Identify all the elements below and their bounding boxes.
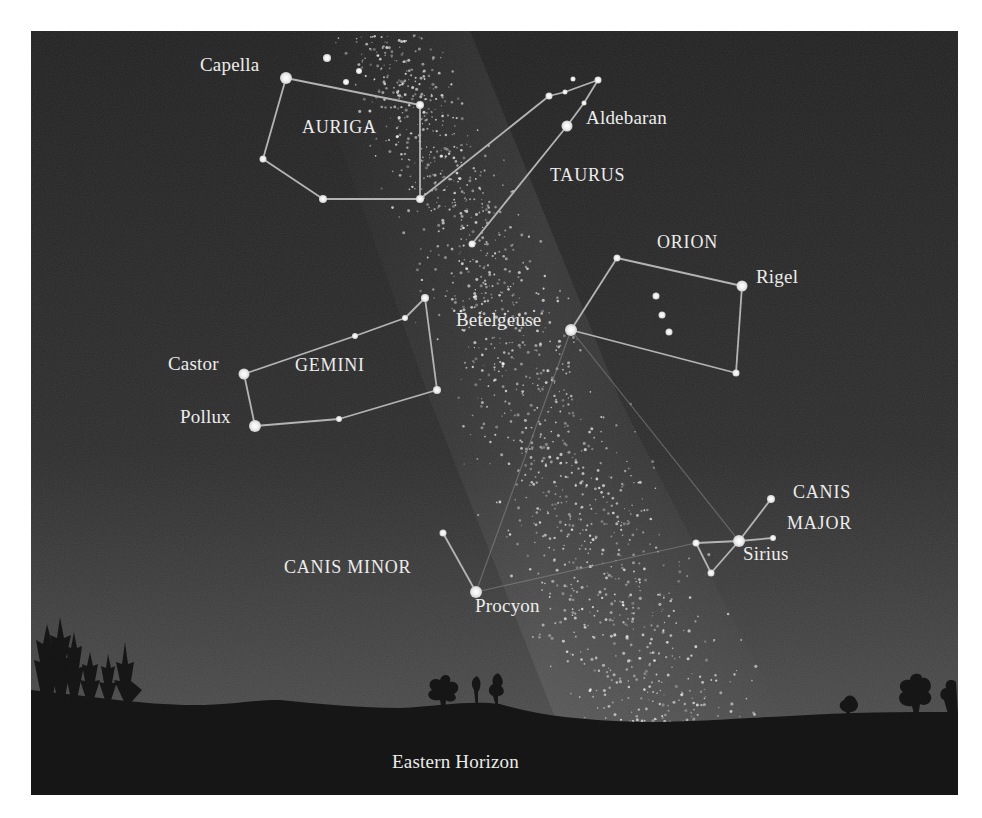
star-aur5 [260, 156, 267, 163]
star-pollux [249, 420, 261, 432]
star-gem4 [421, 294, 429, 302]
star-label-sirius: Sirius [743, 544, 789, 563]
star-label-capella: Capella [200, 55, 259, 74]
star-cmi1 [440, 530, 447, 537]
star-belt2 [659, 312, 666, 319]
constellation-label-auriga: AURIGA [302, 118, 377, 136]
star-aur3 [416, 195, 424, 203]
star-aur-e3 [343, 79, 349, 85]
star-capella [280, 72, 292, 84]
star-cma-top [767, 495, 775, 503]
constellation-label-canis-major-2: MAJOR [787, 514, 852, 532]
star-belt3 [666, 329, 673, 336]
star-aur2 [416, 101, 424, 109]
star-ori4 [733, 370, 740, 377]
constellation-label-orion: ORION [657, 233, 718, 251]
star-label-castor: Castor [168, 354, 219, 373]
constellation-label-canis-major-1: CANIS [793, 483, 851, 501]
star-gem3 [402, 315, 408, 321]
star-label-procyon: Procyon [475, 596, 540, 615]
star-betelgeuse [565, 324, 577, 336]
star-cma-left [693, 540, 700, 547]
constellation-label-canis-minor: CANIS MINOR [284, 558, 411, 576]
star-aldebaran [562, 121, 573, 132]
constellation-label-gemini: GEMINI [295, 356, 365, 374]
star-gem6 [336, 416, 342, 422]
star-label-betelgeuse: Betelgeuse [456, 310, 541, 329]
star-ori2 [614, 255, 621, 262]
star-chart-figure: AURIGATAURUSORIONGEMINICANIS MINORCANISM… [31, 31, 958, 795]
star-cma-right [770, 535, 776, 541]
star-aur-e1 [323, 54, 331, 62]
star-rigel [737, 281, 748, 292]
star-tau3 [582, 101, 587, 106]
star-tau4 [469, 241, 476, 248]
star-label-rigel: Rigel [756, 267, 798, 286]
constellation-label-taurus: TAURUS [550, 166, 625, 184]
star-tau1 [546, 93, 553, 100]
star-gem5 [433, 386, 441, 394]
star-tau-apex [595, 77, 602, 84]
horizon-caption: Eastern Horizon [392, 752, 519, 771]
star-castor [239, 369, 250, 380]
star-tau2 [563, 90, 568, 95]
star-aur-e2 [356, 68, 362, 74]
star-tau-e1 [571, 77, 576, 82]
star-label-pollux: Pollux [180, 407, 231, 426]
night-sky-illustration [31, 31, 958, 795]
star-label-aldebaran: Aldebaran [586, 108, 667, 127]
star-aur4 [319, 195, 327, 203]
star-gem2 [352, 333, 358, 339]
star-belt1 [653, 293, 660, 300]
star-cma-bottom [708, 570, 715, 577]
